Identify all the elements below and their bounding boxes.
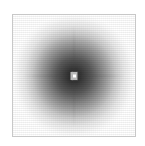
heatmap-surface (13, 15, 135, 136)
saturated-core-marker (71, 72, 78, 80)
plot-frame (12, 14, 136, 137)
figure-root (0, 0, 145, 146)
core-center-pixel (73, 74, 76, 77)
